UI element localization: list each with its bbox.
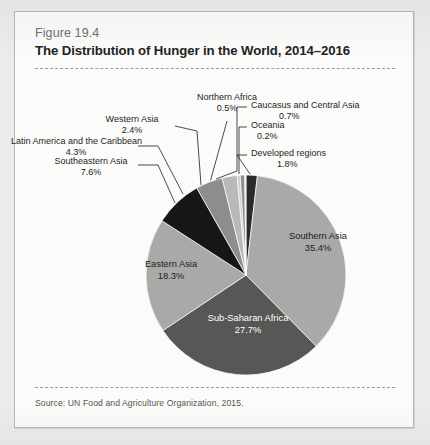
figure-page: Figure 19.4 The Distribution of Hunger i…: [0, 0, 430, 445]
label-northern-africa-name: Northern Africa: [197, 92, 257, 102]
label-oceania-name: Oceania: [251, 120, 285, 130]
label-sub-saharan-africa: Sub-Saharan Africa 27.7%: [188, 312, 308, 336]
label-developed-regions-pct: 1.8%: [251, 159, 326, 170]
source-note: Source: UN Food and Agriculture Organiza…: [35, 398, 244, 408]
label-sub-saharan-africa-name: Sub-Saharan Africa: [208, 313, 289, 323]
leader-oceania: [239, 127, 247, 174]
label-western-asia-name: Western Asia: [106, 114, 159, 124]
label-developed-regions: Developed regions 1.8%: [251, 148, 326, 170]
label-western-asia-pct: 2.4%: [87, 125, 177, 136]
leader-western-asia: [175, 126, 201, 185]
label-southeastern-asia-name: Southeastern Asia: [54, 156, 127, 166]
figure-title: The Distribution of Hunger in the World,…: [35, 43, 350, 58]
pie-chart: Northern Africa 0.5% Western Asia 2.4% L…: [15, 70, 415, 386]
label-eastern-asia-pct: 18.3%: [123, 270, 219, 282]
label-oceania-pct: 0.2%: [251, 131, 285, 142]
label-sub-saharan-africa-pct: 27.7%: [188, 324, 308, 336]
label-southeastern-asia-pct: 7.6%: [41, 167, 141, 178]
leader-northern-africa: [211, 121, 228, 181]
label-southern-asia-pct: 35.4%: [263, 242, 373, 254]
label-western-asia: Western Asia 2.4%: [87, 114, 177, 136]
figure-card: Figure 19.4 The Distribution of Hunger i…: [14, 11, 414, 428]
label-southern-asia: Southern Asia 35.4%: [263, 230, 373, 254]
figure-number: Figure 19.4: [35, 26, 99, 40]
divider-top: [35, 68, 395, 69]
label-latin-america: Latin America and the Caribbean 4.3%: [11, 136, 141, 158]
label-latin-america-name: Latin America and the Caribbean: [11, 136, 142, 146]
label-southeastern-asia: Southeastern Asia 7.6%: [41, 156, 141, 178]
leader-southeastern-asia: [138, 165, 175, 203]
label-caucasus-central-asia: Caucasus and Central Asia 0.7%: [251, 100, 360, 122]
label-eastern-asia-name: Eastern Asia: [145, 259, 197, 269]
divider-bottom: [35, 387, 395, 388]
label-eastern-asia: Eastern Asia 18.3%: [123, 258, 219, 282]
label-oceania: Oceania 0.2%: [251, 120, 285, 142]
label-caucasus-name: Caucasus and Central Asia: [251, 100, 360, 110]
label-southern-asia-name: Southern Asia: [289, 231, 347, 241]
label-developed-regions-name: Developed regions: [251, 148, 326, 158]
